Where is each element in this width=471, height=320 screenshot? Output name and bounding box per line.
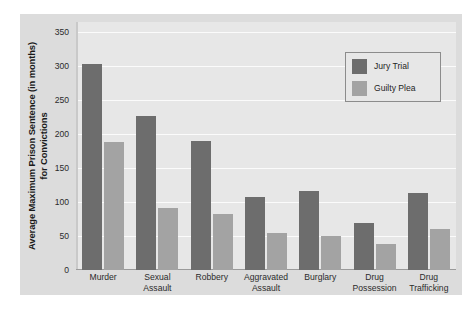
y-axis-tick-label: 100	[55, 197, 69, 207]
x-axis-tick-label: DrugTrafficking	[398, 272, 460, 293]
bar	[321, 236, 341, 270]
bar	[82, 64, 102, 270]
bar-group	[245, 22, 287, 270]
bar	[191, 141, 211, 270]
y-axis-tick-label: 150	[55, 163, 69, 173]
bar-chart-figure: Average Maximum Prison Sentence (in mont…	[0, 0, 471, 320]
bar	[158, 208, 178, 271]
x-axis-tick-label: Robbery	[181, 272, 243, 283]
x-axis-tick-label: Murder	[72, 272, 134, 283]
y-axis-tick-label: 50	[59, 231, 69, 241]
bar	[213, 214, 233, 270]
y-axis-title-line1: Average Maximum Prison Sentence (in mont…	[26, 42, 37, 250]
y-axis-tick-label: 350	[55, 27, 69, 37]
y-axis-tick-label: 0	[64, 265, 69, 275]
bar	[299, 191, 319, 270]
y-axis-title-line2: for Convictions	[37, 112, 48, 179]
bar	[408, 193, 428, 270]
x-axis-tick-label: Burglary	[289, 272, 351, 283]
bar	[104, 142, 124, 270]
bar-group	[191, 22, 233, 270]
bar	[245, 197, 265, 270]
y-axis-tick-label: 250	[55, 95, 69, 105]
bar	[430, 229, 450, 270]
legend-swatch-icon-jury-trial	[352, 59, 367, 74]
bar-group	[299, 22, 341, 270]
bar	[376, 244, 396, 270]
bar-group	[82, 22, 124, 270]
bar	[136, 116, 156, 270]
y-axis-title: Average Maximum Prison Sentence (in mont…	[22, 22, 52, 270]
y-axis-tick-label: 300	[55, 61, 69, 71]
bar	[354, 223, 374, 270]
x-axis-tick-label: AggravatedAssault	[235, 272, 297, 293]
legend: Jury Trial Guilty Plea	[345, 52, 441, 102]
x-axis-tick-labels: MurderSexualAssaultRobberyAggravatedAssa…	[76, 272, 456, 296]
x-axis-tick-label: SexualAssault	[126, 272, 188, 293]
legend-label-jury-trial: Jury Trial	[374, 61, 409, 71]
legend-label-guilty-plea: Guilty Plea	[374, 83, 416, 93]
x-axis-tick-label: DrugPossession	[343, 272, 405, 293]
y-axis-tick-label: 200	[55, 129, 69, 139]
bar-group	[136, 22, 178, 270]
bar	[267, 233, 287, 270]
legend-swatch-icon-guilty-plea	[352, 81, 367, 96]
